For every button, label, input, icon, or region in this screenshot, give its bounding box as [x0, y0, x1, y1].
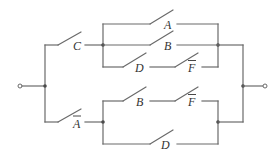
input-terminal — [18, 84, 45, 88]
switch-b-top-label: B — [164, 39, 172, 53]
switch-a-label: A — [163, 18, 172, 32]
output-terminal — [243, 84, 267, 88]
switch-b-bottom: B — [103, 87, 175, 109]
switch-f-bar-bottom-label: F — [187, 95, 196, 109]
switch-a-bar-label: A — [72, 117, 81, 131]
switch-b-top: B — [103, 31, 218, 53]
junction-node — [43, 84, 47, 88]
switch-a-bar: A — [45, 109, 103, 131]
switch-d-top-label: D — [134, 61, 144, 75]
switch-f-bar-bottom: F — [175, 87, 218, 109]
switch-d-bottom: D — [103, 130, 218, 152]
switch-f-bar-top: F — [175, 53, 218, 75]
switch-c-label: C — [73, 39, 82, 53]
junction-node — [101, 120, 105, 124]
switch-c: C — [45, 32, 103, 53]
switch-b-bottom-label: B — [136, 95, 144, 109]
switching-circuit-diagram: C A B D F A — [0, 0, 275, 163]
left-main-bus — [43, 45, 47, 122]
switch-f-bar-top-label: F — [187, 61, 196, 75]
switch-d-top: D — [103, 53, 175, 75]
switch-d-bottom-label: D — [160, 138, 170, 152]
switch-a: A — [103, 10, 218, 32]
right-main-bus — [241, 45, 245, 122]
